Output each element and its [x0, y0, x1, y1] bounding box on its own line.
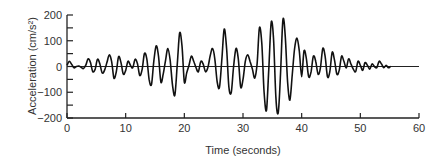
y-axis-title: Acceleration (cm/s²)	[26, 17, 38, 115]
x-tick-label: 50	[354, 122, 366, 134]
x-tick-label: 60	[413, 122, 425, 134]
x-tick-label: 20	[178, 122, 190, 134]
y-tick-label: −200	[37, 112, 62, 124]
x-tick-label: 30	[237, 122, 249, 134]
y-tick-label: 0	[56, 61, 62, 73]
x-axis-title: Time (seconds)	[205, 144, 280, 156]
x-axis: 0102030405060	[64, 113, 425, 134]
y-tick-label: 200	[44, 9, 62, 21]
y-tick-label: 100	[44, 35, 62, 47]
x-tick-label: 0	[64, 122, 70, 134]
x-tick-label: 10	[120, 122, 132, 134]
y-tick-label: −100	[37, 86, 62, 98]
accelerogram-chart: 2001000−100−200 0102030405060 Time (seco…	[0, 0, 447, 162]
x-tick-label: 40	[296, 122, 308, 134]
